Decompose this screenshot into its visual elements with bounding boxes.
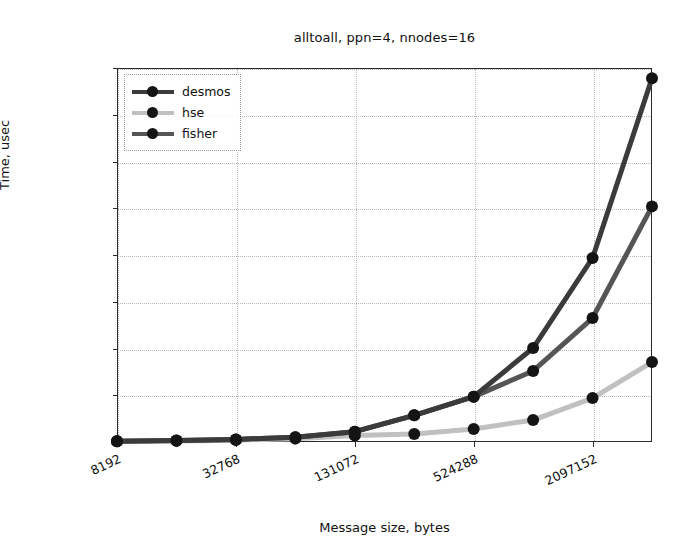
data-point [646,356,658,368]
data-point [111,435,123,447]
data-point [408,409,420,421]
x-tick-label: 2097152 [536,451,599,491]
data-point [587,252,599,264]
data-point [527,365,539,377]
legend-item-desmos: desmos [132,81,230,102]
data-point [468,423,480,435]
x-tick-label: 32768 [180,451,243,491]
legend-item-hse: hse [132,102,230,123]
data-point [170,435,182,447]
x-tick-label: 131072 [299,451,362,491]
legend-item-fisher: fisher [132,123,230,144]
data-point [527,414,539,426]
x-tick-mark [474,442,475,447]
legend-marker-icon-desmos [132,85,174,99]
data-point [349,426,361,438]
legend-label: fisher [182,126,217,141]
y-axis-label: Time, usec [0,120,12,190]
legend-label: hse [182,105,204,120]
data-point [646,200,658,212]
x-tick-label: 524288 [417,451,480,491]
series-fisher [111,200,658,447]
data-point [527,342,539,354]
x-tick-label: 8192 [61,451,124,491]
legend-label: desmos [182,84,230,99]
legend-marker-icon-fisher [132,127,174,141]
data-point [408,428,420,440]
data-point [646,72,658,84]
chart-legend: desmos hse fisher [124,74,241,151]
x-axis-label: Message size, bytes [117,520,652,535]
data-point [587,312,599,324]
x-tick-mark [593,442,594,447]
x-tick-mark [355,442,356,447]
series-hse [111,356,658,447]
data-point [587,392,599,404]
data-point [230,433,242,445]
data-point [289,431,301,443]
legend-marker-icon-hse [132,106,174,120]
chart-title: alltoall, ppn=4, nnodes=16 [117,30,652,45]
data-point [468,391,480,403]
chart-figure: alltoall, ppn=4, nnodes=16 Time, usec Me… [0,0,682,560]
